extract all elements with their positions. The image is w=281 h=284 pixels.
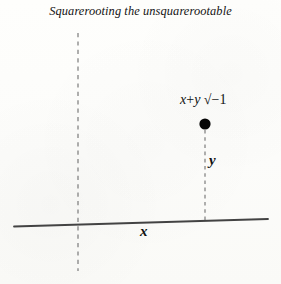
point-plus-sign: + <box>186 92 194 107</box>
point-label: x+y √−1 <box>180 92 226 108</box>
real-axis-label: x <box>140 223 148 240</box>
complex-plane-figure: Squarerooting the unsquarerootable x+y √… <box>0 0 281 284</box>
point-imaginary-coefficient-label: y <box>194 92 200 107</box>
complex-number-point <box>199 118 210 129</box>
radical-minus-one-label: √−1 <box>204 92 227 107</box>
imaginary-leg-label: y <box>209 152 216 169</box>
plot-canvas <box>0 0 281 284</box>
